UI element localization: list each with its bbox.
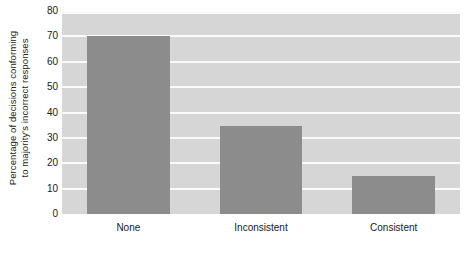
y-axis-tick-label: 60 <box>34 57 58 67</box>
y-axis-title-line-2: to majority's incorrect responses <box>19 38 30 177</box>
y-axis-tick-label: 80 <box>34 6 58 16</box>
plot-area <box>62 11 460 214</box>
x-axis-category-label: None <box>116 222 140 234</box>
y-axis-title: Percentage of decisions conforming to ma… <box>0 0 36 216</box>
y-axis-tick-labels: 01020304050607080 <box>34 0 58 258</box>
y-axis-tick-label: 20 <box>34 158 58 168</box>
y-axis-tick-label: 40 <box>34 108 58 118</box>
bar <box>352 176 435 214</box>
y-axis-tick-label: 30 <box>34 133 58 143</box>
y-axis-tick-label: 70 <box>34 31 58 41</box>
x-axis-category-labels: NoneInconsistentConsistent <box>62 222 460 240</box>
bar-chart: Percentage of decisions conforming to ma… <box>0 0 468 258</box>
y-axis-tick-label: 10 <box>34 184 58 194</box>
gridline <box>62 11 460 14</box>
y-axis-tick-label: 0 <box>34 209 58 219</box>
bar <box>220 126 303 214</box>
y-axis-title-line-1: Percentage of decisions conforming <box>7 31 18 185</box>
bar <box>87 36 170 214</box>
x-axis-category-label: Consistent <box>370 222 417 234</box>
y-axis-tick-label: 50 <box>34 82 58 92</box>
x-axis-category-label: Inconsistent <box>234 222 287 234</box>
